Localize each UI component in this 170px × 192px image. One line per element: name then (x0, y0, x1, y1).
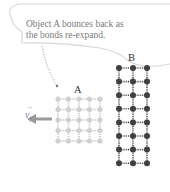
atom (76, 107, 81, 112)
atom (116, 160, 122, 166)
atom (116, 106, 122, 112)
callout-text: Object A bounces back as the bonds re-ex… (26, 19, 124, 41)
atom (130, 79, 136, 85)
atom (76, 117, 81, 122)
atom (66, 107, 71, 112)
atom (144, 65, 150, 71)
atom (144, 79, 150, 85)
atom (97, 138, 102, 143)
atom (87, 138, 92, 143)
velocity-subscript: f (29, 115, 31, 123)
atom (97, 117, 102, 122)
atom (116, 79, 122, 85)
callout-line-1: Object A bounces back as (26, 19, 124, 30)
atom (144, 106, 150, 112)
velocity-label: →vf (25, 109, 31, 123)
atom (97, 107, 102, 112)
vector-arrow-icon: → (26, 103, 33, 111)
atom (116, 92, 122, 98)
atom (66, 96, 71, 101)
atom (87, 117, 92, 122)
object-b-lattice (116, 65, 150, 166)
atom (116, 147, 122, 153)
atom (116, 119, 122, 125)
atom (144, 147, 150, 153)
atom (87, 96, 92, 101)
object-a-label: A (74, 84, 82, 95)
atom (87, 107, 92, 112)
atom (144, 133, 150, 139)
atom (55, 128, 60, 133)
object-a-lattice (55, 96, 102, 143)
atom (130, 65, 136, 71)
callout-line-2: the bonds re-expand. (26, 30, 124, 41)
atom (76, 96, 81, 101)
atom (116, 65, 122, 71)
atom (144, 119, 150, 125)
atom (87, 128, 92, 133)
atom (76, 128, 81, 133)
atom (97, 96, 102, 101)
atom (130, 133, 136, 139)
atom (55, 117, 60, 122)
atom (66, 138, 71, 143)
atom (130, 106, 136, 112)
atom (76, 138, 81, 143)
atom (130, 92, 136, 98)
pointer-dot (56, 85, 58, 87)
atom (144, 160, 150, 166)
atom (130, 119, 136, 125)
atom (66, 128, 71, 133)
object-b-label: B (128, 52, 135, 63)
atom (130, 147, 136, 153)
atom (55, 96, 60, 101)
atom (66, 117, 71, 122)
atom (55, 107, 60, 112)
atom (130, 160, 136, 166)
atom (116, 133, 122, 139)
atom (97, 128, 102, 133)
pointer-line (42, 46, 57, 86)
atom (55, 138, 60, 143)
atom (144, 92, 150, 98)
